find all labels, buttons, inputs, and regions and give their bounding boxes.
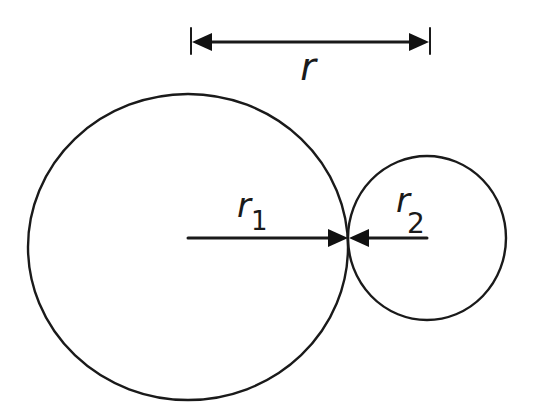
arrowhead-right-icon [328,229,348,247]
arrowhead-right-icon [409,33,429,51]
arrowhead-left-icon [349,229,369,247]
tangent-circles-diagram: r r 1 r 2 [0,0,533,420]
radius-1-arrow [188,229,348,247]
large-circle [28,94,348,400]
radius-2-subscript: 2 [407,207,425,240]
radius-1-subscript: 1 [251,206,268,236]
distance-label: r [300,45,318,89]
arrowhead-left-icon [192,33,212,51]
